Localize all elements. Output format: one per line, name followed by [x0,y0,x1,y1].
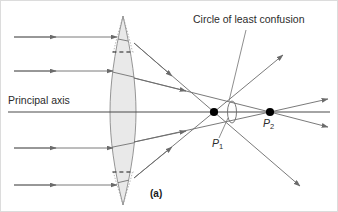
converging-lens [110,16,136,205]
focus-label-p2-subscript: 2 [270,122,274,131]
principal-axis-label: Principal axis [8,95,70,106]
marginal-ray-upper-after-p1 [214,112,300,186]
focus-dot-p2 [266,108,274,116]
circle-of-least-confusion-label: Circle of least confusion [193,14,304,25]
incoming-parallel-rays [14,37,117,185]
focus-label-p1-base: P [212,137,219,149]
figure-container: Principal axis Circle of least confusion… [0,0,338,212]
marginal-ray-upper-arrow [134,43,172,76]
focus-label-p2: P2 [263,118,274,131]
marginal-ray-lower-after-p1 [214,55,283,112]
paraxial-ray-upper-arrow [134,78,186,91]
paraxial-ray-upper-after-p2 [270,112,328,127]
focus-label-p1: P1 [212,138,223,151]
paraxial-ray-lower-after-p2 [270,99,328,112]
marginal-ray-lower-arrow [134,147,172,178]
focus-label-p2-base: P [263,117,270,129]
focus-dot-p1 [210,108,218,116]
optics-diagram-svg [0,0,338,212]
leader-p1 [219,118,228,138]
focus-label-p1-subscript: 1 [219,142,223,151]
panel-label: (a) [150,189,162,199]
paraxial-ray-lower-arrow [134,131,186,142]
paraxial-refracted-rays [134,78,328,142]
figure-frame [1,1,338,212]
lens-body [110,16,136,205]
leader-circle-of-least-confusion [229,30,246,101]
incoming-ray-midpoint-arrows [14,37,56,185]
